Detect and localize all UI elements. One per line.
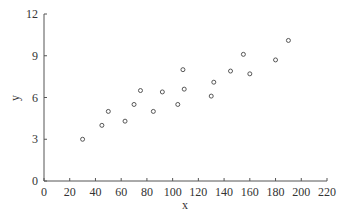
x-tick-label: 100 [164,185,182,199]
data-point [248,72,252,76]
x-tick-label: 200 [292,185,310,199]
data-point [132,102,136,106]
data-point [81,137,85,141]
x-tick-label: 20 [64,185,76,199]
data-point [160,90,164,94]
scatter-chart: 036912 020406080100120140160180200220 x … [0,0,349,223]
data-point [229,69,233,73]
y-tick-label: 9 [32,49,38,63]
x-tick-label: 160 [241,185,259,199]
x-tick-label: 140 [215,185,233,199]
data-point [151,109,155,113]
data-point [286,38,290,42]
x-axis: 020406080100120140160180200220 [41,178,336,199]
y-axis: 036912 [26,7,47,188]
data-point [176,102,180,106]
y-tick-label: 3 [32,132,38,146]
data-points [81,38,291,141]
x-tick-label: 80 [141,185,153,199]
data-point [138,89,142,93]
data-point [181,68,185,72]
y-tick-label: 0 [32,174,38,188]
data-point [106,109,110,113]
y-tick-label: 6 [32,91,38,105]
data-point [100,123,104,127]
x-tick-label: 220 [318,185,336,199]
x-tick-label: 60 [115,185,127,199]
data-point [123,119,127,123]
x-tick-label: 40 [89,185,101,199]
data-point [182,87,186,91]
x-tick-label: 180 [267,185,285,199]
data-point [274,58,278,62]
data-point [212,80,216,84]
y-tick-label: 12 [26,7,38,21]
x-tick-label: 0 [41,185,47,199]
y-axis-label: y [8,95,22,101]
data-point [241,52,245,56]
data-point [209,94,213,98]
x-tick-label: 120 [189,185,207,199]
x-axis-label: x [182,198,188,212]
